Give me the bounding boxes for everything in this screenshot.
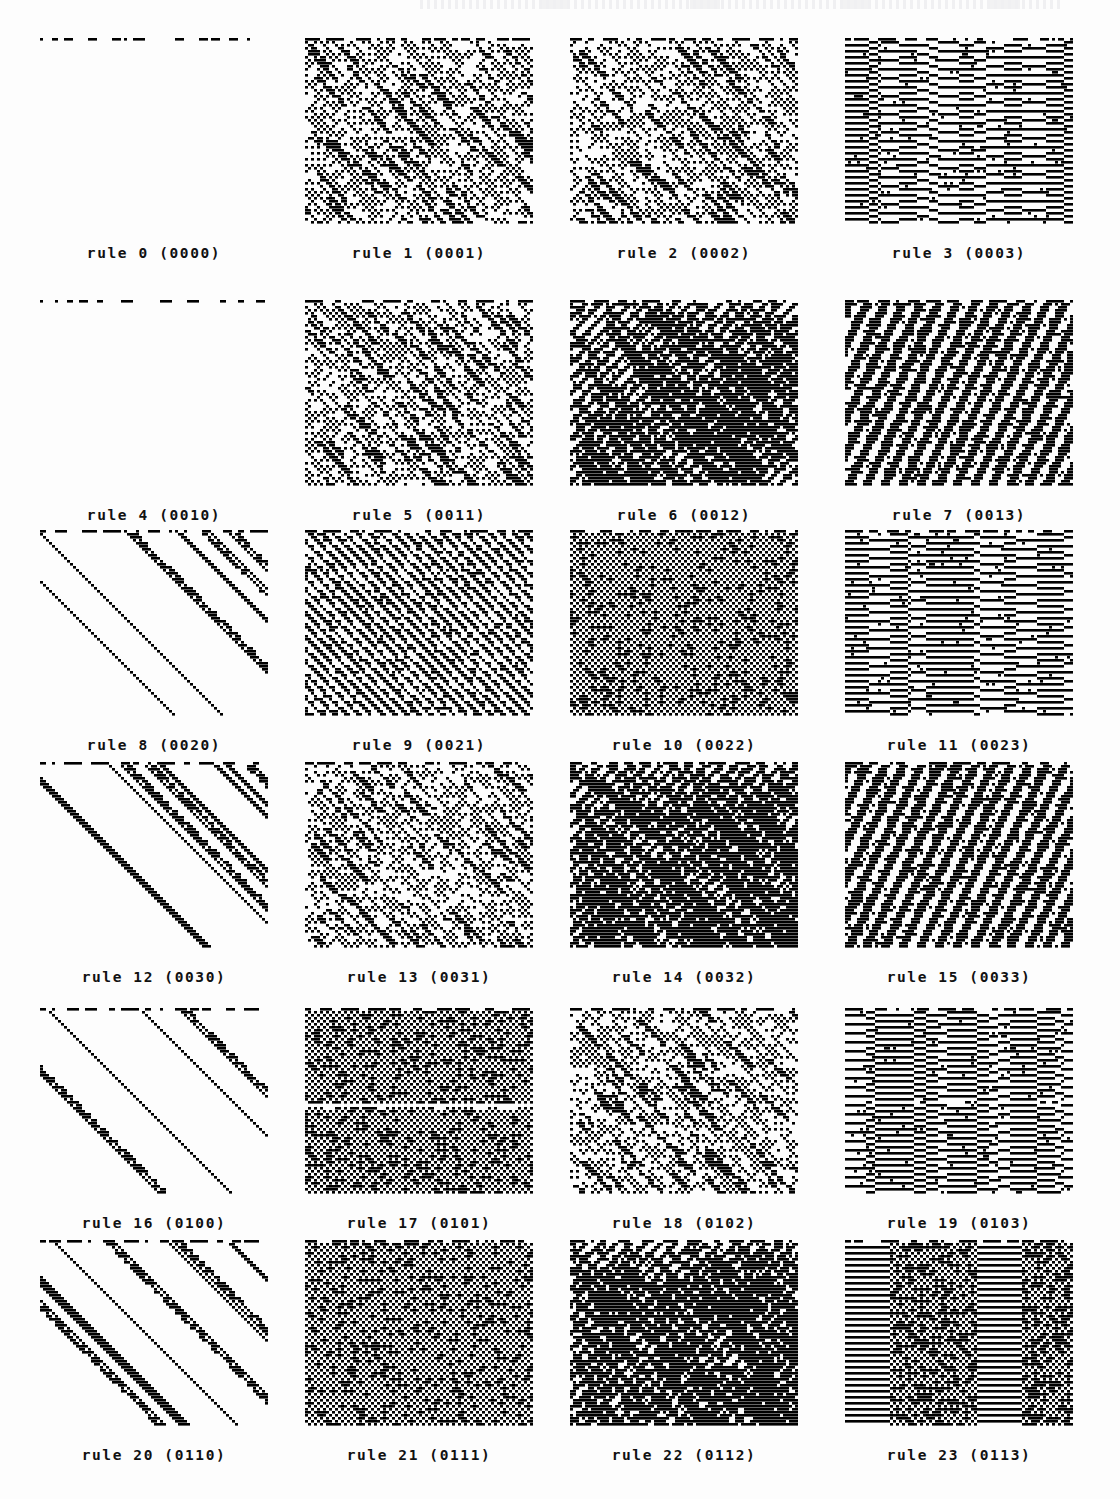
- ca-panel-rule-21: rule 21 (0111): [305, 1240, 533, 1468]
- ca-panel-caption-rule-16: rule 16 (0100): [40, 1216, 268, 1231]
- ca-panel-rule-18: rule 18 (0102): [570, 1008, 798, 1236]
- ca-panel-rule-9: rule 9 (0021): [305, 530, 533, 758]
- ca-panel-rule-1: rule 1 (0001): [305, 38, 533, 266]
- ca-diagram-rule-23: [845, 1240, 1073, 1426]
- ca-diagram-rule-7: [845, 300, 1073, 486]
- ca-panel-caption-rule-19: rule 19 (0103): [845, 1216, 1073, 1231]
- ca-panel-rule-20: rule 20 (0110): [40, 1240, 268, 1468]
- ca-diagram-rule-2: [570, 38, 798, 224]
- ca-panel-caption-rule-14: rule 14 (0032): [570, 970, 798, 985]
- ca-panel-caption-rule-0: rule 0 (0000): [40, 246, 268, 261]
- ca-diagram-rule-8: [40, 530, 268, 716]
- ca-panel-rule-3: rule 3 (0003): [845, 38, 1073, 266]
- ca-diagram-rule-1: [305, 38, 533, 224]
- ca-panel-caption-rule-21: rule 21 (0111): [305, 1448, 533, 1463]
- ca-panel-rule-7: rule 7 (0013): [845, 300, 1073, 528]
- ca-diagram-rule-20: [40, 1240, 268, 1426]
- ca-panel-rule-16: rule 16 (0100): [40, 1008, 268, 1236]
- figure-page: rule 0 (0000)rule 1 (0001)rule 2 (0002)r…: [0, 0, 1120, 1499]
- ca-panel-caption-rule-4: rule 4 (0010): [40, 508, 268, 523]
- ca-panel-caption-rule-7: rule 7 (0013): [845, 508, 1073, 523]
- ca-diagram-rule-18: [570, 1008, 798, 1194]
- ca-panel-caption-rule-10: rule 10 (0022): [570, 738, 798, 753]
- ca-panel-rule-5: rule 5 (0011): [305, 300, 533, 528]
- ca-panel-caption-rule-18: rule 18 (0102): [570, 1216, 798, 1231]
- ca-panel-caption-rule-9: rule 9 (0021): [305, 738, 533, 753]
- ca-panel-rule-23: rule 23 (0113): [845, 1240, 1073, 1468]
- ca-panel-caption-rule-3: rule 3 (0003): [845, 246, 1073, 261]
- ca-panel-caption-rule-20: rule 20 (0110): [40, 1448, 268, 1463]
- ca-panel-rule-10: rule 10 (0022): [570, 530, 798, 758]
- ca-diagram-rule-6: [570, 300, 798, 486]
- ca-panel-caption-rule-22: rule 22 (0112): [570, 1448, 798, 1463]
- ca-diagram-rule-13: [305, 762, 533, 948]
- ca-diagram-rule-16: [40, 1008, 268, 1194]
- ca-panel-caption-rule-13: rule 13 (0031): [305, 970, 533, 985]
- ca-panel-caption-rule-2: rule 2 (0002): [570, 246, 798, 261]
- ca-diagram-rule-19: [845, 1008, 1073, 1194]
- ca-diagram-rule-11: [845, 530, 1073, 716]
- ca-panel-caption-rule-15: rule 15 (0033): [845, 970, 1073, 985]
- ca-panel-caption-rule-11: rule 11 (0023): [845, 738, 1073, 753]
- ca-panel-rule-11: rule 11 (0023): [845, 530, 1073, 758]
- ca-diagram-rule-0: [40, 38, 268, 224]
- ca-diagram-rule-12: [40, 762, 268, 948]
- ca-panel-rule-13: rule 13 (0031): [305, 762, 533, 990]
- ca-panel-rule-12: rule 12 (0030): [40, 762, 268, 990]
- ca-panel-caption-rule-1: rule 1 (0001): [305, 246, 533, 261]
- ca-diagram-rule-21: [305, 1240, 533, 1426]
- ca-diagram-rule-3: [845, 38, 1073, 224]
- ca-panel-rule-2: rule 2 (0002): [570, 38, 798, 266]
- ca-panel-rule-15: rule 15 (0033): [845, 762, 1073, 990]
- ca-panel-rule-6: rule 6 (0012): [570, 300, 798, 528]
- ca-diagram-rule-15: [845, 762, 1073, 948]
- ca-panel-caption-rule-8: rule 8 (0020): [40, 738, 268, 753]
- ca-diagram-rule-4: [40, 300, 268, 486]
- ca-panel-caption-rule-6: rule 6 (0012): [570, 508, 798, 523]
- ca-diagram-rule-10: [570, 530, 798, 716]
- panel-grid: rule 0 (0000)rule 1 (0001)rule 2 (0002)r…: [0, 0, 1120, 1499]
- ca-diagram-rule-22: [570, 1240, 798, 1426]
- ca-panel-caption-rule-5: rule 5 (0011): [305, 508, 533, 523]
- ca-panel-rule-19: rule 19 (0103): [845, 1008, 1073, 1236]
- ca-panel-caption-rule-23: rule 23 (0113): [845, 1448, 1073, 1463]
- ca-panel-caption-rule-17: rule 17 (0101): [305, 1216, 533, 1231]
- ca-diagram-rule-9: [305, 530, 533, 716]
- ca-panel-rule-4: rule 4 (0010): [40, 300, 268, 528]
- ca-diagram-rule-17: [305, 1008, 533, 1194]
- ca-panel-caption-rule-12: rule 12 (0030): [40, 970, 268, 985]
- ca-panel-rule-8: rule 8 (0020): [40, 530, 268, 758]
- ca-diagram-rule-14: [570, 762, 798, 948]
- ca-panel-rule-0: rule 0 (0000): [40, 38, 268, 266]
- ca-panel-rule-17: rule 17 (0101): [305, 1008, 533, 1236]
- ca-panel-rule-14: rule 14 (0032): [570, 762, 798, 990]
- ca-panel-rule-22: rule 22 (0112): [570, 1240, 798, 1468]
- ca-diagram-rule-5: [305, 300, 533, 486]
